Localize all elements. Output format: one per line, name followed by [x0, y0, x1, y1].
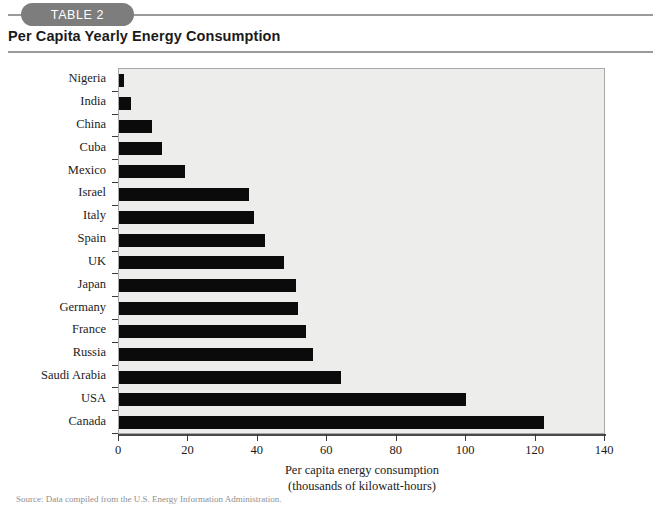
y-label-china: China — [76, 118, 106, 131]
y-label-italy: Italy — [83, 209, 106, 222]
bar-italy — [119, 206, 605, 229]
bar-uk — [119, 252, 605, 275]
bar-rect — [119, 371, 341, 384]
y-label-germany: Germany — [59, 301, 106, 314]
plot-area — [118, 68, 605, 434]
bar-rect — [119, 348, 313, 361]
bar-rect — [119, 97, 131, 110]
bar-india — [119, 92, 605, 115]
y-label-nigeria: Nigeria — [69, 72, 106, 85]
y-label-mexico: Mexico — [68, 164, 106, 177]
x-tick-label: 60 — [320, 443, 333, 458]
y-label-uk: UK — [88, 255, 106, 268]
bar-france — [119, 320, 605, 343]
y-label-spain: Spain — [78, 232, 106, 245]
y-label-israel: Israel — [78, 186, 106, 199]
x-tick-label: 0 — [115, 443, 121, 458]
x-axis-line — [118, 434, 606, 436]
y-label-canada: Canada — [69, 415, 106, 428]
bar-canada — [119, 411, 605, 434]
bar-rect — [119, 416, 544, 429]
y-label-usa: USA — [81, 392, 106, 405]
bar-japan — [119, 274, 605, 297]
x-tick-label: 140 — [595, 443, 614, 458]
bar-rect — [119, 325, 306, 338]
bar-rect — [119, 142, 162, 155]
bar-nigeria — [119, 69, 605, 92]
table-title: Per Capita Yearly Energy Consumption — [8, 28, 280, 44]
bar-spain — [119, 229, 605, 252]
x-tick — [187, 434, 188, 441]
x-tick — [396, 434, 397, 441]
table-number-label: TABLE 2 — [51, 8, 104, 22]
bar-rect — [119, 165, 185, 178]
y-label-cuba: Cuba — [80, 141, 106, 154]
x-tick — [118, 434, 119, 441]
bar-rect — [119, 393, 466, 406]
y-label-france: France — [72, 323, 106, 336]
bar-cuba — [119, 137, 605, 160]
x-tick — [257, 434, 258, 441]
table-header: TABLE 2 Per Capita Yearly Energy Consump… — [0, 0, 657, 56]
x-axis-title: Per capita energy consumption — [118, 462, 606, 478]
bar-chart-figure: NigeriaIndiaChinaCubaMexicoIsraelItalySp… — [0, 56, 657, 505]
bar-saudi-arabia — [119, 366, 605, 389]
y-label-saudi-arabia: Saudi Arabia — [41, 369, 106, 382]
bar-rect — [119, 120, 152, 133]
bar-rect — [119, 256, 284, 269]
x-tick-label: 120 — [525, 443, 544, 458]
bar-rect — [119, 302, 298, 315]
x-tick — [604, 434, 605, 441]
bar-china — [119, 115, 605, 138]
bars-layer — [119, 69, 604, 433]
bar-rect — [119, 234, 265, 247]
y-axis-labels: NigeriaIndiaChinaCubaMexicoIsraelItalySp… — [0, 68, 114, 434]
bar-rect — [119, 211, 254, 224]
bar-usa — [119, 388, 605, 411]
x-tick-label: 20 — [181, 443, 194, 458]
x-tick — [326, 434, 327, 441]
source-note: Source: Data compiled from the U.S. Ener… — [16, 494, 282, 504]
x-tick-label: 80 — [389, 443, 402, 458]
y-label-japan: Japan — [78, 278, 106, 291]
table-number-badge: TABLE 2 — [21, 3, 134, 26]
bar-germany — [119, 297, 605, 320]
bar-rect — [119, 279, 296, 292]
x-tick — [535, 434, 536, 441]
bar-israel — [119, 183, 605, 206]
x-tick — [465, 434, 466, 441]
header-rule-bottom — [8, 51, 653, 53]
x-axis-title-units: (thousands of kilowatt-hours) — [118, 478, 606, 494]
bar-russia — [119, 343, 605, 366]
y-label-india: India — [80, 95, 106, 108]
bar-rect — [119, 188, 249, 201]
bar-mexico — [119, 160, 605, 183]
bar-rect — [119, 74, 124, 87]
y-label-russia: Russia — [73, 346, 106, 359]
x-tick-label: 100 — [456, 443, 475, 458]
x-tick-label: 40 — [251, 443, 264, 458]
